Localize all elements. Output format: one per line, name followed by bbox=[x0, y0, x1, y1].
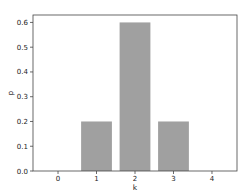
x-tick-label: 3 bbox=[171, 175, 175, 183]
y-tick-label: 0.4 bbox=[17, 68, 29, 76]
x-tick-label: 4 bbox=[210, 175, 215, 183]
bar-chart: 01234 0.00.10.20.30.40.50.6 k p bbox=[0, 0, 252, 195]
y-tick-label: 0.3 bbox=[17, 93, 28, 101]
x-tick-label: 1 bbox=[94, 175, 98, 183]
y-axis-label: p bbox=[6, 90, 15, 95]
y-tick-label: 0.2 bbox=[17, 118, 28, 126]
x-tick-label: 2 bbox=[133, 175, 137, 183]
y-tick-label: 0.1 bbox=[17, 143, 28, 151]
y-tick-label: 0.0 bbox=[17, 168, 28, 176]
x-tick-label: 0 bbox=[56, 175, 60, 183]
bar-k-2 bbox=[120, 22, 151, 171]
bar-k-3 bbox=[158, 121, 189, 171]
y-tick-label: 0.5 bbox=[17, 44, 28, 52]
y-tick-label: 0.6 bbox=[17, 19, 29, 27]
bar-k-1 bbox=[81, 121, 112, 171]
x-axis-label: k bbox=[133, 183, 138, 192]
